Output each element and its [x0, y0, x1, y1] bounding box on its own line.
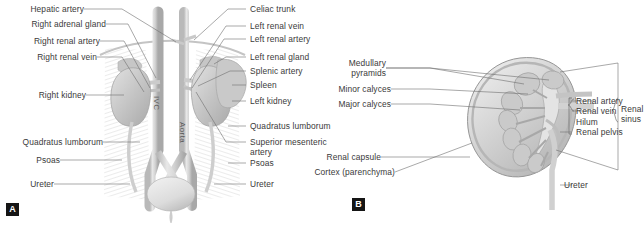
label-spleen: Spleen [250, 81, 277, 91]
label-renal-sinus: Renal sinus [621, 105, 643, 124]
spleen-organ [216, 59, 246, 107]
label-ureter-right: Ureter [250, 180, 274, 190]
label-renal-vein: Renal vein [576, 107, 617, 117]
label-medullary-pyramids: Medullary pyramids [330, 59, 386, 78]
label-ureter-b: Ureter [564, 181, 588, 191]
label-left-renal-vein: Left renal vein [250, 22, 304, 32]
anatomy-figure: Hepatic artery Right adrenal gland Right… [0, 0, 644, 226]
label-right-kidney: Right kidney [0, 91, 86, 101]
bladder-organ [147, 177, 195, 211]
label-right-adrenal-gland: Right adrenal gland [0, 20, 106, 30]
label-left-renal-artery: Left renal artery [250, 35, 310, 45]
label-renal-pelvis: Renal pelvis [576, 128, 623, 138]
label-renal-capsule: Renal capsule [310, 153, 381, 163]
label-major-calyces: Major calyces [318, 100, 391, 110]
label-psoas-right: Psoas [250, 159, 274, 169]
label-celiac-trunk: Celiac trunk [250, 5, 295, 15]
panel-badge-b: B [352, 198, 365, 211]
label-right-renal-artery: Right renal artery [0, 37, 100, 47]
label-aorta: Aorta [178, 122, 187, 143]
right-kidney-organ [111, 68, 151, 126]
label-quadratus-lumborum-left: Quadratus lumborum [0, 138, 103, 148]
panel-a-illustration [0, 0, 644, 226]
label-cortex-parenchyma: Cortex (parenchyma) [298, 168, 395, 178]
label-psoas-left: Psoas [0, 156, 60, 166]
label-minor-calyces: Minor calyces [318, 85, 391, 95]
label-ivc: IVC [152, 96, 161, 111]
label-splenic-artery: Splenic artery [250, 67, 303, 77]
label-right-renal-vein: Right renal vein [0, 53, 97, 63]
urethra [170, 211, 172, 223]
label-left-renal-gland: Left renal gland [250, 53, 309, 63]
panel-badge-a: A [6, 203, 19, 216]
label-ureter-left: Ureter [0, 180, 54, 190]
label-hepatic-artery: Hepatic artery [0, 5, 84, 15]
label-quadratus-lumborum-right: Quadratus lumborum [250, 122, 330, 132]
label-left-kidney: Left kidney [250, 97, 292, 107]
